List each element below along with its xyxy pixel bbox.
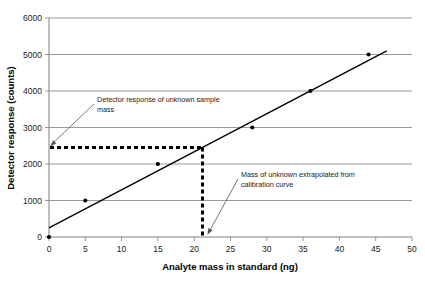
xtick-label-15: 15 — [153, 244, 163, 254]
ytick-label-2000: 2000 — [23, 159, 42, 169]
xtick-label-20: 20 — [189, 244, 199, 254]
detector-response-annotation-line1: Detector response of unknown sample — [97, 95, 220, 104]
xtick-label-50: 50 — [407, 244, 417, 254]
data-point-4 — [308, 89, 312, 93]
data-point-2 — [156, 162, 160, 166]
unknown-mass-annotation-line2: calibration curve — [241, 180, 293, 189]
ytick-label-5000: 5000 — [23, 50, 42, 60]
ytick-label-6000: 6000 — [23, 13, 42, 23]
unknown-mass-leader-line — [209, 179, 238, 232]
xtick-label-10: 10 — [117, 244, 127, 254]
ytick-label-4000: 4000 — [23, 86, 42, 96]
unknown-mass-arrowhead — [208, 228, 213, 235]
y-axis-ticks — [45, 18, 49, 237]
calibration-trend-line — [49, 51, 387, 228]
unknown-mass-annotation-line1: Mass of unknown extrapolated from — [241, 170, 355, 179]
data-point-5 — [366, 52, 370, 56]
xtick-label-5: 5 — [83, 244, 88, 254]
ytick-label-0: 0 — [37, 232, 42, 242]
detector-response-leader-line — [52, 104, 94, 144]
xtick-label-45: 45 — [371, 244, 381, 254]
data-point-markers — [47, 52, 371, 239]
data-point-0 — [47, 235, 51, 239]
x-axis-title: Analyte mass in standard (ng) — [162, 261, 298, 272]
y-axis-tick-labels: 6000 5000 4000 3000 2000 1000 0 — [23, 13, 42, 242]
x-axis-tick-labels: 0 5 10 15 20 25 30 35 40 45 50 — [47, 244, 417, 254]
y-axis-title: Detector response (counts) — [5, 66, 16, 190]
unknown-mass-annotation: Mass of unknown extrapolated from calibr… — [208, 170, 355, 235]
detector-response-annotation: Detector response of unknown sample mass — [50, 95, 220, 147]
ytick-label-1000: 1000 — [23, 196, 42, 206]
xtick-label-40: 40 — [335, 244, 345, 254]
xtick-label-35: 35 — [298, 244, 308, 254]
ytick-label-3000: 3000 — [23, 123, 42, 133]
x-axis-ticks — [49, 237, 412, 241]
data-point-3 — [250, 125, 254, 129]
xtick-label-30: 30 — [262, 244, 272, 254]
calibration-curve-figure: 6000 5000 4000 3000 2000 1000 0 0 5 10 1… — [0, 0, 425, 281]
xtick-label-25: 25 — [226, 244, 236, 254]
guide-lines — [50, 148, 203, 237]
data-point-1 — [83, 198, 87, 202]
xtick-label-0: 0 — [47, 244, 52, 254]
detector-response-annotation-line2: mass — [97, 105, 115, 114]
chart-canvas: 6000 5000 4000 3000 2000 1000 0 0 5 10 1… — [0, 0, 425, 281]
